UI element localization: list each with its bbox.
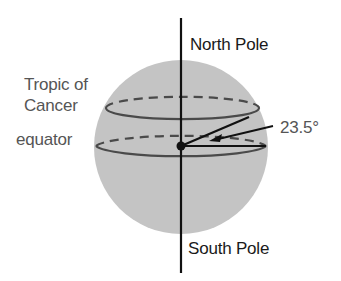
equator-label: equator (16, 130, 72, 150)
tropic-label-line2: Cancer (24, 96, 78, 116)
north-pole-label: North Pole (190, 35, 268, 55)
earth-center-dot (177, 142, 186, 151)
south-pole-label: South Pole (188, 239, 269, 259)
tropic-label-line1: Tropic of (24, 75, 88, 95)
angle-label: 23.5° (280, 118, 319, 138)
